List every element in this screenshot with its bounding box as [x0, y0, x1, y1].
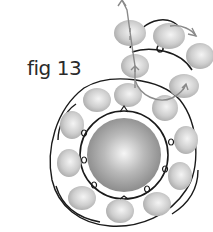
beading-diagram: [0, 0, 213, 232]
ring-bead: [143, 192, 171, 216]
ring-bead: [60, 111, 84, 139]
center-bead: [87, 118, 161, 192]
ring-bead: [57, 149, 81, 177]
ring-bead: [174, 126, 198, 154]
ring-bead: [168, 162, 192, 190]
ring-bead: [106, 199, 134, 223]
spiral-bead: [186, 43, 213, 69]
ring-bead: [83, 88, 111, 112]
ring-bead: [68, 186, 96, 210]
spiral-bead: [153, 23, 185, 49]
